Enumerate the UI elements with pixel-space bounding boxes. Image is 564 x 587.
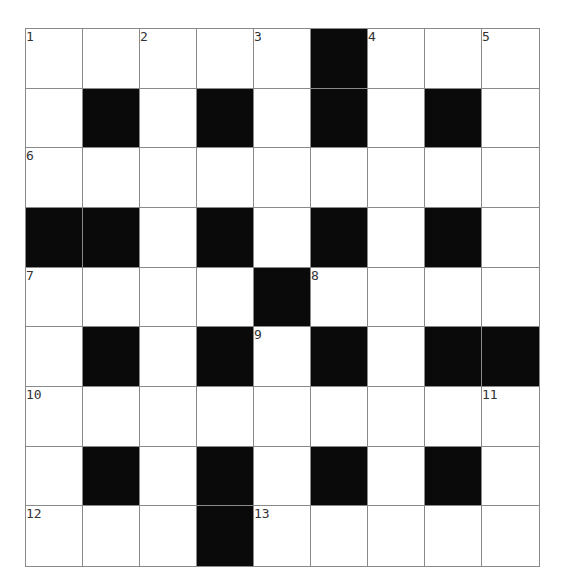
crossword-cell[interactable] [83, 387, 140, 447]
black-cell [83, 447, 140, 507]
crossword-cell[interactable]: 5 [482, 29, 539, 89]
crossword-grid: 12345678910111213 [25, 28, 540, 567]
crossword-cell[interactable] [368, 208, 425, 268]
crossword-cell[interactable]: 10 [26, 387, 83, 447]
crossword-cell[interactable] [140, 208, 197, 268]
crossword-cell[interactable] [482, 148, 539, 208]
crossword-cell[interactable] [482, 89, 539, 149]
clue-number: 10 [26, 388, 42, 401]
black-cell [197, 447, 254, 507]
crossword-cell[interactable] [140, 268, 197, 328]
crossword-cell[interactable]: 1 [26, 29, 83, 89]
black-cell [254, 268, 311, 328]
crossword-cell[interactable] [425, 387, 482, 447]
crossword-cell[interactable] [482, 506, 539, 566]
crossword-cell[interactable]: 7 [26, 268, 83, 328]
crossword-cell[interactable] [425, 29, 482, 89]
crossword-cell[interactable] [197, 268, 254, 328]
black-cell [425, 89, 482, 149]
crossword-cell[interactable] [83, 506, 140, 566]
clue-number: 5 [482, 30, 490, 43]
crossword-cell[interactable] [83, 268, 140, 328]
clue-number: 4 [368, 30, 376, 43]
black-cell [83, 208, 140, 268]
crossword-cell[interactable] [311, 506, 368, 566]
black-cell [425, 208, 482, 268]
black-cell [425, 447, 482, 507]
black-cell [311, 29, 368, 89]
crossword-cell[interactable] [368, 148, 425, 208]
clue-number: 3 [254, 30, 262, 43]
crossword-cell[interactable] [311, 387, 368, 447]
crossword-cell[interactable]: 6 [26, 148, 83, 208]
crossword-cell[interactable] [254, 148, 311, 208]
clue-number: 2 [140, 30, 148, 43]
clue-number: 7 [26, 269, 34, 282]
crossword-cell[interactable] [26, 327, 83, 387]
clue-number: 13 [254, 507, 270, 520]
clue-number: 9 [254, 328, 262, 341]
black-cell [197, 208, 254, 268]
crossword-cell[interactable] [140, 89, 197, 149]
crossword-cell[interactable]: 13 [254, 506, 311, 566]
crossword-cell[interactable] [140, 327, 197, 387]
crossword-cell[interactable] [197, 29, 254, 89]
crossword-cell[interactable] [368, 447, 425, 507]
clue-number: 8 [311, 269, 319, 282]
crossword-cell[interactable]: 9 [254, 327, 311, 387]
crossword-cell[interactable] [26, 89, 83, 149]
crossword-cell[interactable] [368, 506, 425, 566]
black-cell [482, 327, 539, 387]
crossword-cell[interactable] [140, 387, 197, 447]
crossword-cell[interactable] [254, 447, 311, 507]
crossword-cell[interactable]: 3 [254, 29, 311, 89]
black-cell [425, 327, 482, 387]
crossword-cell[interactable] [83, 29, 140, 89]
crossword-cell[interactable] [26, 447, 83, 507]
clue-number: 1 [26, 30, 34, 43]
crossword-cell[interactable] [254, 387, 311, 447]
crossword-cell[interactable]: 12 [26, 506, 83, 566]
crossword-cell[interactable]: 4 [368, 29, 425, 89]
black-cell [197, 506, 254, 566]
crossword-cell[interactable] [311, 148, 368, 208]
crossword-cell[interactable] [254, 208, 311, 268]
black-cell [311, 208, 368, 268]
black-cell [197, 89, 254, 149]
crossword-cell[interactable] [254, 89, 311, 149]
crossword-cell[interactable]: 11 [482, 387, 539, 447]
crossword-cell[interactable] [482, 268, 539, 328]
black-cell [83, 327, 140, 387]
crossword-cell[interactable] [140, 506, 197, 566]
black-cell [26, 208, 83, 268]
crossword-cell[interactable] [425, 506, 482, 566]
crossword-cell[interactable] [140, 447, 197, 507]
black-cell [83, 89, 140, 149]
black-cell [311, 447, 368, 507]
crossword-cell[interactable] [368, 387, 425, 447]
crossword-cell[interactable] [482, 208, 539, 268]
crossword-cell[interactable] [425, 268, 482, 328]
crossword-cell[interactable] [368, 327, 425, 387]
black-cell [311, 327, 368, 387]
crossword-cell[interactable] [197, 148, 254, 208]
clue-number: 12 [26, 507, 42, 520]
crossword-cell[interactable] [83, 148, 140, 208]
crossword-cell[interactable] [368, 89, 425, 149]
crossword-cell[interactable] [482, 447, 539, 507]
crossword-cell[interactable]: 8 [311, 268, 368, 328]
black-cell [311, 89, 368, 149]
crossword-cell[interactable]: 2 [140, 29, 197, 89]
crossword-cell[interactable] [140, 148, 197, 208]
black-cell [197, 327, 254, 387]
crossword-cell[interactable] [197, 387, 254, 447]
clue-number: 11 [482, 388, 498, 401]
crossword-cell[interactable] [425, 148, 482, 208]
crossword-cell[interactable] [368, 268, 425, 328]
clue-number: 6 [26, 149, 34, 162]
